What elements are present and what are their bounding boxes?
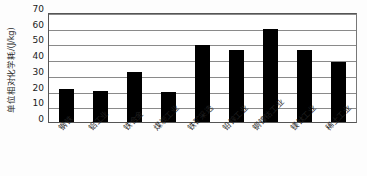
bar-slot [185, 14, 219, 122]
x-label-slot: 煤炭工业 [151, 124, 185, 176]
bar-slot [288, 14, 322, 122]
y-axis-tick-labels: 706050403020100 [22, 9, 44, 123]
x-label-slot: 稀土工业 [323, 124, 357, 176]
bar-slot [117, 14, 151, 122]
bar-slot [322, 14, 356, 122]
bar-slot [49, 14, 83, 122]
y-axis-tick-label: 50 [22, 36, 44, 45]
y-axis-tick-label: 10 [22, 99, 44, 108]
y-axis-tick-label: 20 [22, 84, 44, 93]
x-label-slot: 镁钛工业 [288, 124, 322, 176]
bar-chart: 单位相对化学耗/(J/kg) 706050403020100 钢铁铝工业铁合金煤… [0, 0, 367, 176]
y-axis-tick-label: 0 [22, 115, 44, 124]
x-label-slot: 钢铁 [48, 124, 82, 176]
y-axis-tick-label: 60 [22, 21, 44, 30]
x-axis-category-labels: 钢铁铝工业铁合金煤炭工业铁矿采选铅锌工业铜镍钴工业镁钛工业稀土工业 [48, 124, 357, 176]
x-label-slot: 铝工业 [82, 124, 116, 176]
y-axis-tick-label: 40 [22, 52, 44, 61]
x-label-slot: 铁合金 [117, 124, 151, 176]
x-label-slot: 铅锌工业 [220, 124, 254, 176]
bar-slot [83, 14, 117, 122]
bar-slot [151, 14, 185, 122]
bar-slot [220, 14, 254, 122]
y-axis-tick-label: 30 [22, 68, 44, 77]
x-label-slot: 铁矿采选 [185, 124, 219, 176]
y-axis-tick-label: 70 [22, 5, 44, 14]
y-axis-title: 单位相对化学耗/(J/kg) [4, 10, 18, 130]
x-label-slot: 铜镍钴工业 [254, 124, 288, 176]
